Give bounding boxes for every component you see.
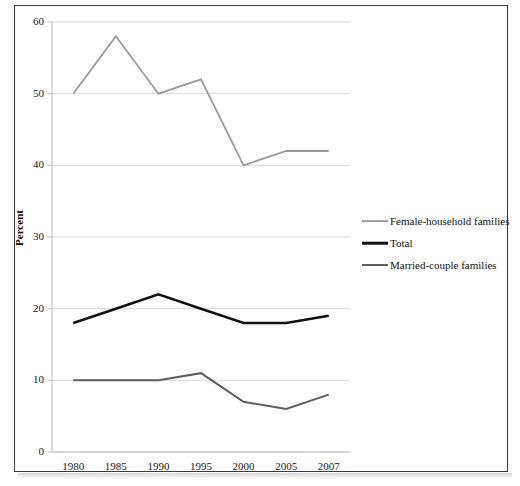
x-tick-label-1990: 1990: [135, 460, 181, 472]
legend-item[interactable]: Total: [362, 232, 518, 254]
y-tick-label-0: 0: [18, 445, 44, 457]
legend-line-swatch-icon: [362, 238, 388, 248]
legend-line-swatch-icon: [362, 216, 388, 226]
x-tick-label-1995: 1995: [178, 460, 224, 472]
legend-line-swatch-icon: [362, 260, 388, 270]
y-tick-label-50: 50: [18, 87, 44, 99]
y-tick-label-20: 20: [18, 302, 44, 314]
y-tick-label-30: 30: [18, 230, 44, 242]
x-tick-label-1985: 1985: [93, 460, 139, 472]
gridlines: [52, 22, 350, 452]
legend-item[interactable]: Female-household families: [362, 210, 518, 232]
legend-item-label: Total: [390, 237, 412, 249]
series-line-0: [73, 36, 328, 165]
series-line-2: [73, 373, 328, 409]
x-tick-label-2000: 2000: [221, 460, 267, 472]
legend-item-label: Married-couple families: [390, 259, 497, 271]
axis-ticks: [48, 22, 52, 452]
chart-page: Percent 0102030405060 198019851990199520…: [0, 0, 520, 486]
y-tick-label-40: 40: [18, 158, 44, 170]
y-tick-label-10: 10: [18, 373, 44, 385]
x-tick-label-1980: 1980: [50, 460, 96, 472]
chart-legend: Female-household familiesTotalMarried-co…: [362, 210, 518, 276]
legend-item[interactable]: Married-couple families: [362, 254, 518, 276]
y-axis-title: Percent: [13, 198, 25, 258]
y-tick-label-60: 60: [18, 15, 44, 27]
data-series: [73, 36, 328, 409]
x-tick-label-2005: 2005: [263, 460, 309, 472]
legend-item-label: Female-household families: [390, 215, 509, 227]
x-tick-label-2007: 2007: [306, 460, 352, 472]
